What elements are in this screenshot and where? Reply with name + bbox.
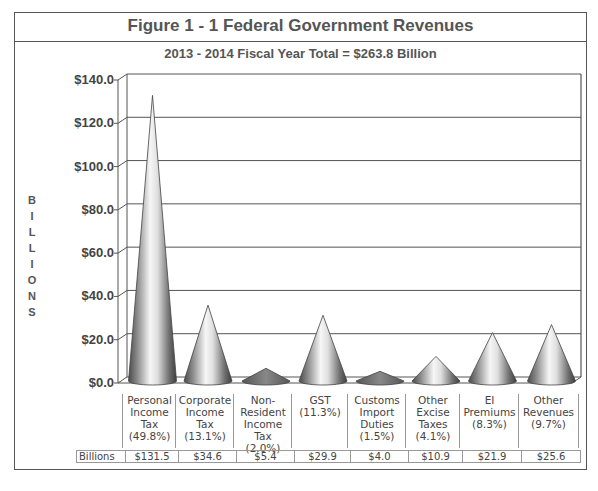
category-label: PersonalIncomeTax(49.8%) xyxy=(122,394,176,448)
table-row-label: Billions xyxy=(77,451,126,463)
cone-bar xyxy=(469,333,517,385)
cone-bar xyxy=(184,305,232,385)
category-label: GST(11.3%) xyxy=(291,394,348,448)
cone-bar xyxy=(412,356,460,385)
table-cell-value: $34.6 xyxy=(179,451,237,463)
category-label: OtherExciseTaxes(4.1%) xyxy=(405,394,460,448)
table-cell-value: $25.6 xyxy=(522,451,581,463)
table-cell-value: $5.4 xyxy=(237,451,295,463)
cone-bar xyxy=(356,371,404,385)
table-cell-value: $4.0 xyxy=(351,451,409,463)
data-table: Billions$131.5$34.6$5.4$29.9$4.0$10.9$21… xyxy=(76,450,581,463)
table-cell-value: $10.9 xyxy=(409,451,463,463)
category-label: CorporateIncomeTax(13.1%) xyxy=(175,394,234,448)
cone-bar xyxy=(299,315,347,385)
category-label: CustomsImportDuties(1.5%) xyxy=(347,394,406,448)
cone-bar xyxy=(129,95,177,385)
category-label: Non-ResidentIncomeTax(2.0%) xyxy=(233,394,292,448)
table-cell-value: $21.9 xyxy=(463,451,522,463)
category-label: EIPremiums(8.3%) xyxy=(459,394,519,448)
category-label: OtherRevenues(9.7%) xyxy=(518,394,579,448)
table-cell-value: $131.5 xyxy=(126,451,179,463)
table-cell-value: $29.9 xyxy=(295,451,351,463)
